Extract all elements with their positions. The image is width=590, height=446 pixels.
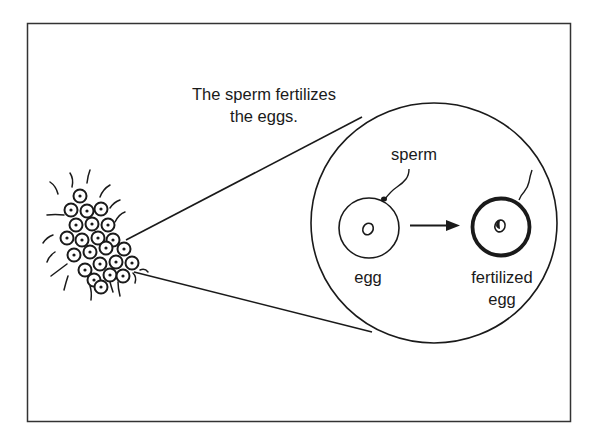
label-fertilized-line-1: fertilized xyxy=(471,268,532,286)
caption-line-2: the eggs. xyxy=(230,107,298,125)
sperm-head xyxy=(381,197,387,202)
diagram-canvas: The sperm fertilizes the eggs. xyxy=(0,0,590,446)
label-egg: egg xyxy=(354,268,382,286)
label-fertilized-line-2: egg xyxy=(488,290,516,308)
caption-line-1: The sperm fertilizes xyxy=(192,85,336,103)
label-sperm: sperm xyxy=(391,145,437,163)
